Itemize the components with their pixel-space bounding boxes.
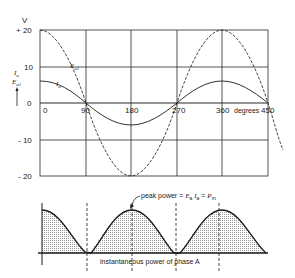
y-tick-neg20: - 20 (18, 172, 32, 181)
x-tick-90: 90 (81, 106, 90, 115)
x-tick-270: 270 (172, 106, 186, 115)
x-tick-450: 450 (261, 106, 275, 115)
svg-text:Ia: Ia (13, 69, 19, 78)
y-tick-neg10: - 10 (18, 136, 32, 145)
x-tick-360: 360 (216, 106, 230, 115)
ia-curve-label: Ia (55, 80, 61, 89)
x-unit-label: degrees (234, 107, 260, 115)
peak-pointer-arrow (132, 196, 140, 206)
arrow-up-icon (16, 87, 19, 91)
voltage-current-chart: V + 20 10 0 - 10 - 20 Ia Ea1 0 90 180 27… (11, 16, 283, 181)
x-tick-0: 0 (43, 106, 48, 115)
phase-power-diagram: V + 20 10 0 - 10 - 20 Ia Ea1 0 90 180 27… (0, 0, 295, 278)
power-caption: instantaneous power of phase A (100, 258, 200, 266)
ea1-curve-label: Ea1 (69, 62, 79, 71)
y-tick-0: 0 (27, 99, 32, 108)
y-tick-20: + 20 (16, 26, 32, 35)
y-side-label: Ia Ea1 (11, 69, 21, 106)
peak-power-annotation: peak power = EaIa = Pm (141, 192, 216, 201)
power-chart: peak power = EaIa = Pm instantaneous pow… (38, 192, 268, 272)
svg-text:Ea1: Ea1 (11, 78, 21, 87)
y-tick-10: 10 (24, 63, 33, 72)
x-tick-180: 180 (125, 106, 139, 115)
power-shaded-area (42, 210, 265, 253)
y-unit-label: V (22, 16, 28, 25)
grid (40, 30, 268, 176)
